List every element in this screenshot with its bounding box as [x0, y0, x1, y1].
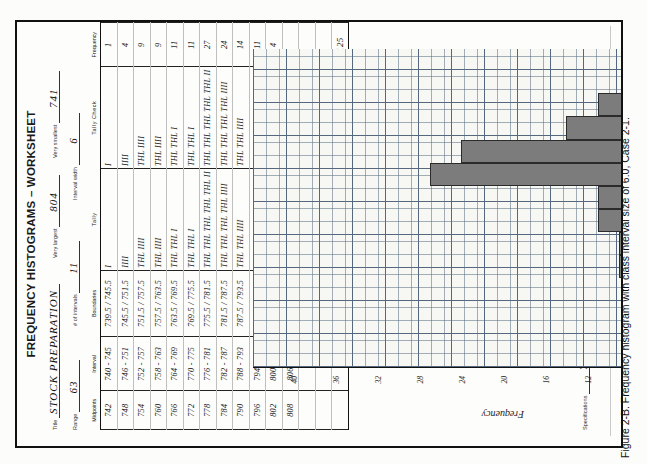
field-very-smallest-value[interactable]: 741: [47, 71, 60, 123]
y-axis-title: Frequency: [482, 409, 524, 420]
cell-boundaries[interactable]: 757.5 / 763.5: [150, 270, 167, 336]
y-axis-tick: 24: [458, 376, 467, 404]
field-num-intervals: # of intervals 11: [67, 241, 80, 326]
y-axis-tick: 16: [542, 376, 551, 404]
field-range-value[interactable]: 63: [67, 360, 80, 412]
col-boundaries: Boundaries: [89, 270, 101, 336]
histogram-bars: [253, 49, 623, 367]
table-header-row: Midpoints Interval Boundaries Tally Tall…: [89, 23, 101, 430]
cell-midpoint[interactable]: 742: [101, 391, 118, 430]
cell-boundaries[interactable]: 751.5 / 757.5: [134, 270, 151, 336]
histogram-bar[interactable]: [461, 140, 623, 163]
field-very-smallest-label: Very smallest: [52, 125, 58, 158]
field-num-intervals-value[interactable]: 11: [67, 241, 80, 293]
cell-boundaries[interactable]: 745.5 / 751.5: [117, 270, 134, 336]
cell-frequency[interactable]: 9: [150, 23, 167, 67]
cell-check[interactable]: THL IIII: [134, 67, 151, 169]
table-row: 742740 - 745739.5 / 745.5II1: [101, 23, 118, 430]
cell-check[interactable]: THL IIII: [150, 67, 167, 169]
cell-midpoint[interactable]: 748: [117, 391, 134, 430]
y-axis-tick: 20: [500, 376, 509, 404]
cell-check[interactable]: I: [101, 67, 118, 169]
histogram: Lower Spec.Upper Spec.481216202428323640…: [213, 22, 623, 446]
cell-interval[interactable]: 746 - 751: [117, 337, 134, 391]
y-axis-tick: 12: [584, 376, 593, 404]
cell-boundaries[interactable]: 739.5 / 745.5: [101, 270, 118, 336]
cell-interval[interactable]: 764 - 769: [167, 337, 184, 391]
histogram-host: Lower Spec.Upper Spec.481216202428323640…: [213, 22, 623, 446]
table-row: 748746 - 751745.5 / 751.5IIIIIIII4: [117, 23, 134, 430]
field-very-smallest: Very smallest 741: [47, 71, 60, 158]
histogram-bar[interactable]: [598, 186, 624, 209]
table-row: 760758 - 763757.5 / 763.5THL IIIITHL III…: [150, 23, 167, 430]
spec-label: Lower Spec.: [553, 297, 566, 350]
cell-interval[interactable]: 740 - 745: [101, 337, 118, 391]
field-interval-width: Interval width 6: [67, 113, 80, 200]
histogram-plot-area: [253, 49, 623, 368]
cell-frequency[interactable]: 9: [134, 23, 151, 67]
table-row: 754752 - 757751.5 / 757.5THL IIIITHL III…: [134, 23, 151, 430]
cell-tally[interactable]: IIII: [117, 169, 134, 271]
cell-check[interactable]: THL THL I: [167, 67, 184, 169]
cell-midpoint[interactable]: 772: [183, 391, 200, 430]
cell-boundaries[interactable]: 769.5 / 775.5: [183, 270, 200, 336]
cell-interval[interactable]: 758 - 763: [150, 337, 167, 391]
cell-midpoint[interactable]: 766: [167, 391, 184, 430]
y-axis-tick: 36: [332, 376, 341, 404]
worksheet-sheet: FREQUENCY HISTOGRAMS – WORKSHEET Title S…: [15, 20, 623, 448]
y-axis-tick: 40: [290, 376, 299, 404]
cell-interval[interactable]: 752 - 757: [134, 337, 151, 391]
y-axis-tick: 28: [416, 376, 425, 404]
field-interval-width-value[interactable]: 6: [67, 113, 80, 165]
cell-midpoint[interactable]: 760: [150, 391, 167, 430]
field-title: Title STOCK PREPARATION: [47, 284, 60, 430]
field-very-largest: Very largest 804: [47, 175, 60, 258]
field-interval-width-label: Interval width: [72, 167, 78, 200]
field-range: Range 63: [67, 360, 80, 430]
cell-check[interactable]: THL THL I: [183, 67, 200, 169]
table-row: 772770 - 775769.5 / 775.5THL THL ITHL TH…: [183, 23, 200, 430]
cell-frequency[interactable]: 11: [167, 23, 184, 67]
cell-tally[interactable]: THL THL I: [167, 169, 184, 271]
histogram-bar[interactable]: [598, 209, 624, 232]
y-axis-tick: 32: [374, 376, 383, 404]
cell-tally[interactable]: THL THL I: [183, 169, 200, 271]
field-title-value[interactable]: STOCK PREPARATION: [47, 284, 60, 418]
field-title-label: Title: [52, 420, 58, 430]
table-row: 766764 - 769763.5 / 769.5THL THL ITHL TH…: [167, 23, 184, 430]
field-range-label: Range: [72, 414, 78, 430]
spec-line: [253, 355, 623, 357]
cell-tally[interactable]: THL IIII: [134, 169, 151, 271]
cell-boundaries[interactable]: 763.5 / 769.5: [167, 270, 184, 336]
page-title: FREQUENCY HISTOGRAMS – WORKSHEET: [25, 22, 37, 446]
cell-tally[interactable]: THL IIII: [150, 169, 167, 271]
cell-frequency[interactable]: 11: [183, 23, 200, 67]
cell-frequency[interactable]: 1: [101, 23, 118, 67]
col-tally: Tally: [89, 169, 101, 271]
col-tally-check: Tally Check: [89, 67, 101, 169]
cell-midpoint[interactable]: 754: [134, 391, 151, 430]
cell-tally[interactable]: I: [101, 169, 118, 271]
histogram-bar[interactable]: [430, 163, 624, 186]
histogram-bar[interactable]: [566, 116, 623, 139]
field-very-largest-value[interactable]: 804: [47, 175, 60, 227]
col-frequency: Frequency: [89, 23, 101, 67]
field-very-largest-label: Very largest: [52, 228, 58, 258]
field-num-intervals-label: # of intervals: [72, 294, 78, 326]
col-midpoints: Midpoints: [89, 391, 101, 430]
cell-frequency[interactable]: 4: [117, 23, 134, 67]
scanned-page: FREQUENCY HISTOGRAMS – WORKSHEET Title S…: [0, 0, 647, 464]
spec-label: Upper Spec.: [553, 70, 566, 123]
cell-interval[interactable]: 770 - 775: [183, 337, 200, 391]
histogram-bar[interactable]: [598, 93, 624, 116]
cell-check[interactable]: IIII: [117, 67, 134, 169]
spec-line: [253, 128, 623, 130]
col-interval: Interval: [89, 337, 101, 391]
